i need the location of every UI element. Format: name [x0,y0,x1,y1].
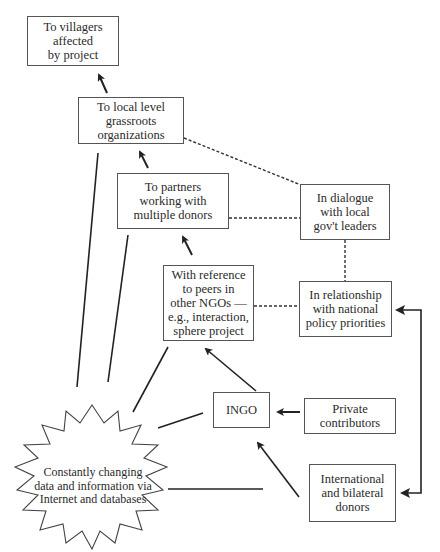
arrow-grassroots-to-villagers [99,75,107,93]
line-cloud-ingo [158,413,203,428]
node-donors-label: International and bilateral donors [321,472,385,514]
node-grassroots-label: To local level grassroots organizations [97,100,165,142]
node-dialogue-label: In dialogue with local gov't leaders [314,191,377,233]
arrow-ingo-to-peers [206,349,256,391]
node-peers-label: With reference to peers in other NGOs — … [168,268,249,338]
line-cloud-partners [108,235,128,382]
arrow-donors-to-ingo [258,443,299,497]
node-partners: To partners working with multiple donors [117,173,229,229]
node-partners-label: To partners working with multiple donors [134,180,213,222]
arrow-partners-to-grassroots [140,152,148,168]
node-ingo: INGO [213,392,270,428]
node-relationship-label: In relationship with national policy pri… [306,288,386,330]
node-relationship: In relationship with national policy pri… [299,281,392,337]
line-cloud-peers [133,347,168,412]
node-private: Private contributors [304,398,396,434]
node-peers: With reference to peers in other NGOs — … [163,265,254,341]
node-villagers: To villagers affected by project [27,16,119,66]
node-donors: International and bilateral donors [309,464,396,522]
node-dialogue: In dialogue with local gov't leaders [300,184,390,240]
data-cloud-label: Constantly changing data and information… [22,466,164,507]
node-ingo-label: INGO [226,403,257,417]
arrow-peers-to-partners [183,237,192,255]
node-villagers-label: To villagers affected by project [43,20,102,62]
arrow-donors-relationship-loop [398,310,421,493]
line-cloud-grassroots [77,153,98,387]
node-grassroots: To local level grassroots organizations [78,97,184,144]
node-private-label: Private contributors [320,402,380,430]
